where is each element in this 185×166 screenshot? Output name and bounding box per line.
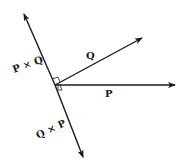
label-q: Q — [86, 50, 95, 61]
label-pxq: P × Q — [11, 54, 45, 75]
label-p: P — [105, 88, 113, 99]
cross-product-diagram: P × Q Q P Q × P — [0, 0, 185, 166]
right-angle-marker-lower — [58, 85, 62, 90]
label-qxp: Q × P — [34, 117, 68, 141]
vector-q — [55, 38, 142, 85]
vector-pxq — [24, 14, 55, 85]
